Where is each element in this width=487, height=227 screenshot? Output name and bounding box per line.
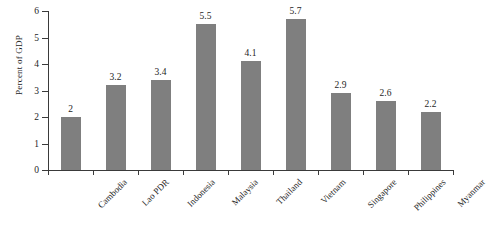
bar (106, 85, 126, 170)
x-category-label: Myanmar (455, 177, 487, 209)
x-category-label: Malaysia (229, 177, 259, 207)
x-category-label: Thailand (274, 177, 304, 207)
bar-value-label: 5.5 (186, 11, 226, 21)
bar-value-label: 2.9 (321, 80, 361, 90)
x-category-label: Singapore (365, 177, 398, 210)
bar-value-label: 3.4 (141, 67, 181, 77)
x-category-label: Philippines (411, 177, 447, 213)
x-category-label: Cambodia (95, 177, 128, 210)
bar-value-label: 5.7 (276, 6, 316, 16)
bar-value-label: 2.6 (366, 88, 406, 98)
bar (61, 117, 81, 170)
bar-value-label: 4.1 (231, 48, 271, 58)
bar (331, 93, 351, 170)
bar-value-label: 3.2 (96, 72, 136, 82)
x-category-label: Vietnam (318, 177, 347, 206)
bar (151, 80, 171, 170)
bar (196, 24, 216, 170)
bar (376, 101, 396, 170)
bar (241, 61, 261, 170)
x-category-label: Indonesia (185, 177, 217, 209)
x-category-label: Lao PDR (139, 177, 170, 208)
bar (286, 19, 306, 170)
plot-area (0, 0, 463, 171)
bar-value-label: 2 (51, 104, 91, 114)
bar-value-label: 2.2 (411, 99, 451, 109)
bar (421, 112, 441, 170)
